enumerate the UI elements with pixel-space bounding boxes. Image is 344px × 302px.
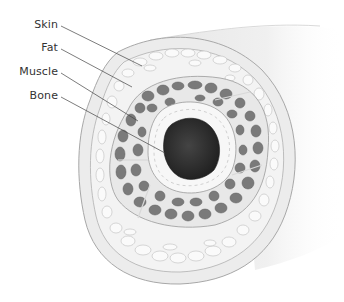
muscle-label: Muscle [19,65,58,78]
bone-label: Bone [30,89,58,102]
limb-cross-section-diagram: Skin Fat Muscle Bone [0,0,344,302]
bone-marrow [164,118,220,179]
skin-label: Skin [34,18,58,31]
bone-layer [148,102,236,193]
fat-label: Fat [41,41,58,54]
